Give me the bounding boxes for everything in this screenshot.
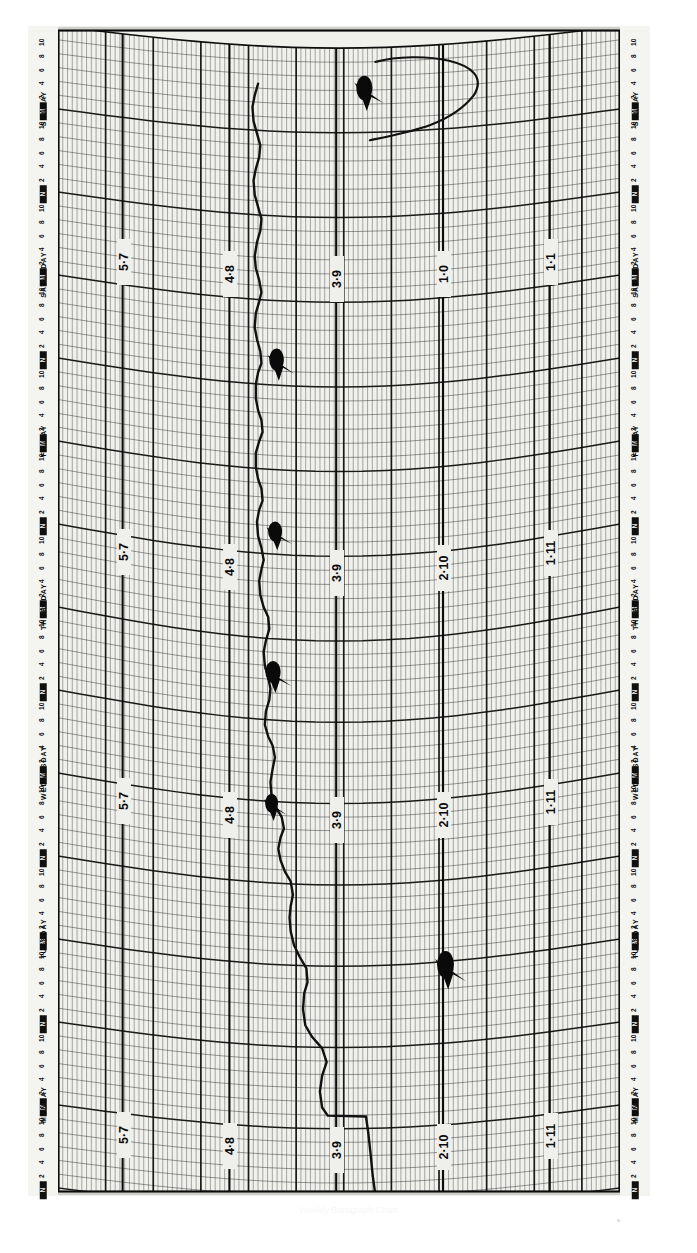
day-label-sunday: SUNDAY bbox=[40, 71, 47, 145]
day-label-monday: MONDAY bbox=[40, 1067, 47, 1141]
scale-value-label: 2·10 bbox=[437, 545, 451, 591]
hour-tick-8: 8 bbox=[631, 878, 638, 894]
hour-tick-2: 2 bbox=[631, 836, 638, 852]
scale-value-label: 2·10 bbox=[437, 1124, 451, 1170]
scale-value-label: 3·9 bbox=[330, 550, 344, 596]
barograph-chart: NN224466881010MM224466881010MONDAYMONDAY… bbox=[28, 26, 650, 1196]
hour-tick-8: 8 bbox=[631, 712, 638, 728]
chart-grid-and-trace bbox=[28, 26, 650, 1196]
hour-tick-8: 8 bbox=[39, 878, 46, 894]
day-label-friday: FRIDAY bbox=[40, 403, 47, 477]
scale-value-label: 3·9 bbox=[330, 256, 344, 302]
scale-value-label: 5·7 bbox=[117, 778, 131, 824]
hour-tick-2: 2 bbox=[631, 1002, 638, 1018]
scale-value-label: 4·8 bbox=[223, 1123, 237, 1169]
scale-value-label: 1·11 bbox=[544, 779, 558, 825]
hour-tick-2: 2 bbox=[39, 1002, 46, 1018]
hour-tick-8: 8 bbox=[39, 380, 46, 396]
scale-value-label: 3·9 bbox=[330, 797, 344, 843]
hour-tick-2: 2 bbox=[631, 504, 638, 520]
hour-tick-2: 2 bbox=[39, 1168, 46, 1184]
scale-value-label: 4·8 bbox=[223, 544, 237, 590]
scale-value-label: 4·8 bbox=[223, 251, 237, 297]
day-label-thursday: THURSDAY bbox=[632, 569, 639, 643]
scale-value-label: 3·9 bbox=[330, 1127, 344, 1173]
day-label-saturday: SATURDAY bbox=[632, 237, 639, 311]
hour-tick-8: 8 bbox=[631, 1044, 638, 1060]
day-label-wednesday: WEDNESDAY bbox=[40, 735, 47, 809]
day-label-wednesday: WEDNESDAY bbox=[632, 735, 639, 809]
hour-tick-2: 2 bbox=[39, 670, 46, 686]
hour-tick-2: 2 bbox=[631, 1168, 638, 1184]
scale-value-label: 1·1 bbox=[544, 239, 558, 285]
day-label-monday: MONDAY bbox=[632, 1067, 639, 1141]
hour-tick-2: 2 bbox=[631, 670, 638, 686]
day-label-sunday: SUNDAY bbox=[632, 71, 639, 145]
scan-page: NN224466881010MM224466881010MONDAYMONDAY… bbox=[0, 0, 697, 1253]
hour-tick-8: 8 bbox=[631, 214, 638, 230]
hour-tick-8: 8 bbox=[39, 712, 46, 728]
hour-tick-8: 8 bbox=[39, 1044, 46, 1060]
scale-value-label: 1·0 bbox=[437, 251, 451, 297]
scale-value-label: 1·11 bbox=[544, 530, 558, 576]
hour-tick-8: 8 bbox=[631, 546, 638, 562]
hour-tick-2: 2 bbox=[39, 172, 46, 188]
day-label-thursday: THURSDAY bbox=[40, 569, 47, 643]
day-label-saturday: SATURDAY bbox=[40, 237, 47, 311]
hour-tick-8: 8 bbox=[39, 214, 46, 230]
hour-tick-2: 2 bbox=[631, 338, 638, 354]
scale-value-label: 4·8 bbox=[223, 792, 237, 838]
scale-value-label: 5·7 bbox=[117, 529, 131, 575]
hour-tick-2: 2 bbox=[39, 836, 46, 852]
hour-tick-2: 2 bbox=[39, 338, 46, 354]
scale-value-label: 2·10 bbox=[437, 792, 451, 838]
scan-caption: Weekly Barograph Chart bbox=[0, 1205, 697, 1215]
hour-tick-8: 8 bbox=[631, 48, 638, 64]
day-label-tuesday: TUESDAY bbox=[632, 901, 639, 975]
day-label-friday: FRIDAY bbox=[632, 403, 639, 477]
scale-value-label: 5·7 bbox=[117, 239, 131, 285]
day-label-tuesday: TUESDAY bbox=[40, 901, 47, 975]
scale-value-label: 1·11 bbox=[544, 1113, 558, 1159]
hour-tick-8: 8 bbox=[39, 48, 46, 64]
hour-tick-8: 8 bbox=[39, 546, 46, 562]
hour-tick-2: 2 bbox=[631, 172, 638, 188]
hour-tick-10: 10 bbox=[39, 34, 46, 50]
hour-tick-2: 2 bbox=[39, 504, 46, 520]
hour-tick-10: 10 bbox=[631, 34, 638, 50]
hour-tick-8: 8 bbox=[631, 380, 638, 396]
scan-speck bbox=[617, 1219, 620, 1222]
scale-value-label: 5·7 bbox=[117, 1112, 131, 1158]
